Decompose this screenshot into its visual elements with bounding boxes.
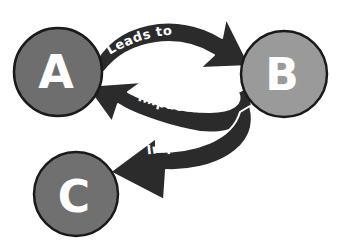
edge-a-to-b: Leads to [92,18,250,72]
node-a: A [14,28,102,116]
node-b-label: B [265,49,299,100]
node-c: C [34,152,118,236]
edge-b-to-a: Impacts [86,82,252,133]
node-b: B [241,31,327,117]
node-c-label: C [58,171,90,222]
node-a-label: A [38,45,74,99]
cause-effect-diagram: Leads to Impacts Impacts A B C [0,0,337,251]
